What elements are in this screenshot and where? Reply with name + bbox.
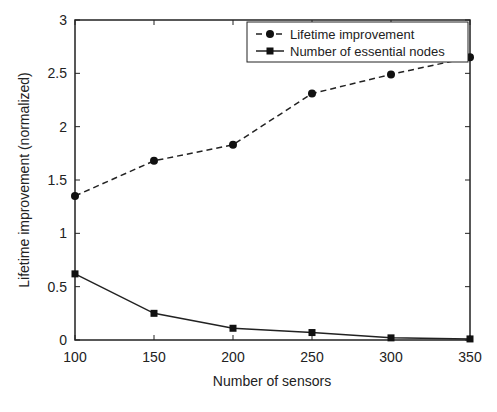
data-point-square	[230, 325, 237, 332]
axis-ticks: 10015020025030035000.511.522.53	[48, 12, 482, 365]
y-tick-label: 1.5	[48, 172, 68, 188]
y-tick-label: 3	[59, 12, 67, 28]
legend-marker-square	[267, 48, 274, 55]
data-point-circle	[387, 70, 395, 78]
data-point-circle	[308, 90, 316, 98]
x-tick-label: 350	[458, 349, 482, 365]
x-tick-label: 300	[379, 349, 403, 365]
plot-frame	[75, 20, 470, 340]
data-point-square	[388, 334, 395, 341]
x-tick-label: 200	[221, 349, 245, 365]
legend-label: Lifetime improvement	[290, 27, 415, 42]
data-series	[71, 53, 474, 342]
x-tick-label: 250	[300, 349, 324, 365]
axes	[75, 20, 470, 340]
series-line	[75, 57, 470, 196]
data-point-circle	[229, 141, 237, 149]
data-point-square	[467, 335, 474, 342]
data-point-square	[72, 270, 79, 277]
data-point-circle	[71, 192, 79, 200]
data-point-circle	[150, 157, 158, 165]
y-tick-label: 0	[59, 332, 67, 348]
line-chart: 10015020025030035000.511.522.53 Lifetime…	[0, 0, 497, 412]
legend: Lifetime improvementNumber of essential …	[247, 22, 468, 62]
x-axis-label: Number of sensors	[213, 373, 331, 389]
legend-label: Number of essential nodes	[290, 44, 445, 59]
data-point-square	[151, 310, 158, 317]
y-tick-label: 1	[59, 225, 67, 241]
y-tick-label: 0.5	[48, 279, 68, 295]
series-line	[75, 274, 470, 339]
x-tick-label: 100	[63, 349, 87, 365]
y-tick-label: 2.5	[48, 65, 68, 81]
legend-marker-circle	[266, 30, 274, 38]
y-axis-label: Lifetime improvement (normalized)	[16, 72, 32, 288]
y-tick-label: 2	[59, 119, 67, 135]
data-point-square	[309, 329, 316, 336]
x-tick-label: 150	[142, 349, 166, 365]
